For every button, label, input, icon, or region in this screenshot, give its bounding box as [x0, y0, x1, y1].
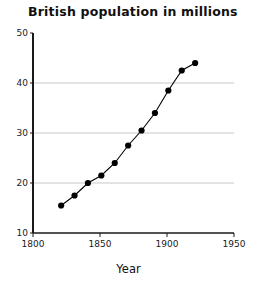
y-tick-label: 40	[17, 78, 29, 88]
data-point-marker	[152, 110, 158, 116]
series-polyline	[61, 63, 195, 206]
data-point-marker	[165, 87, 171, 93]
y-tick-label: 50	[17, 28, 29, 38]
y-tick-label: 20	[17, 178, 29, 188]
x-tick-label: 1850	[89, 239, 112, 249]
chart-plot-area: 1800185019001950 1020304050	[0, 0, 257, 289]
data-point-marker	[125, 142, 131, 148]
x-tick-label: 1800	[22, 239, 45, 249]
data-point-marker	[138, 127, 144, 133]
data-point-marker	[192, 60, 198, 66]
y-tick-label: 10	[17, 228, 29, 238]
data-point-marker	[179, 67, 185, 73]
x-axis-ticks: 1800185019001950	[22, 233, 246, 249]
data-point-marker	[85, 180, 91, 186]
data-point-marker	[112, 160, 118, 166]
data-point-marker	[58, 202, 64, 208]
y-tick-label: 30	[17, 128, 29, 138]
y-axis-ticks: 1020304050	[17, 28, 33, 238]
x-tick-label: 1900	[156, 239, 179, 249]
data-point-marker	[98, 172, 104, 178]
data-point-marker	[71, 192, 77, 198]
x-tick-label: 1950	[223, 239, 246, 249]
x-axis-label: Year	[0, 262, 257, 276]
gridlines-group	[33, 83, 234, 183]
data-series-line	[61, 63, 195, 206]
data-point-markers	[58, 60, 198, 209]
chart-container: British population in millions 180018501…	[0, 0, 257, 289]
